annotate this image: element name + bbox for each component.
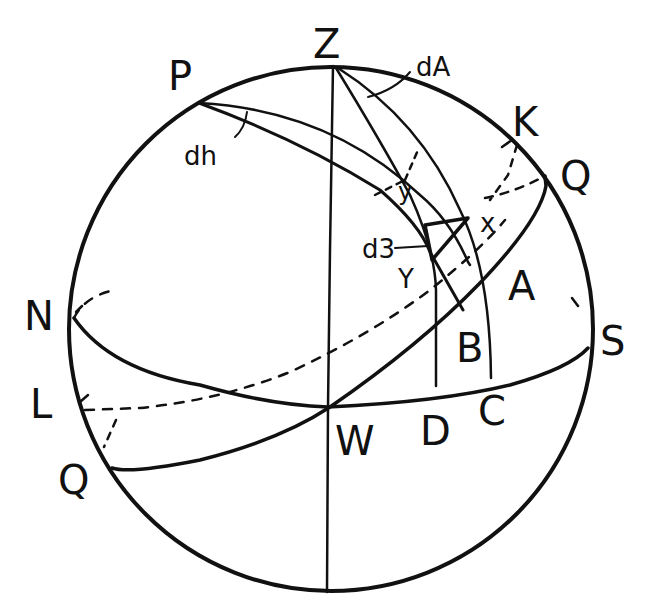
label-L: L: [30, 381, 53, 427]
label-X: x: [480, 208, 495, 238]
label-W: W: [335, 418, 375, 464]
K-tick: [502, 140, 512, 147]
label-Q-right: Q: [560, 153, 591, 199]
label-S: S: [600, 318, 625, 364]
horizon-back: [74, 290, 115, 318]
label-B: B: [456, 325, 483, 371]
prime-vertical-line: [327, 66, 333, 592]
dz-leader: [395, 246, 428, 248]
label-y: y: [398, 178, 412, 206]
equator-back-right: [485, 176, 545, 198]
label-D: D: [420, 408, 451, 454]
label-N: N: [24, 293, 54, 339]
dh-leader: [235, 112, 247, 137]
dashed-top-segment: [405, 150, 418, 180]
label-Y: Y: [397, 264, 414, 294]
L-tick: [80, 395, 88, 402]
L-Q-dashed: [104, 420, 116, 447]
label-Z: Z: [313, 21, 340, 67]
label-K: K: [512, 99, 540, 145]
label-P: P: [168, 53, 192, 99]
label-dz: d3: [362, 234, 395, 264]
celestial-sphere-diagram: Z P dA dh K Q y x d3 Y A N S B L D C W Q: [0, 0, 650, 604]
label-Q-left: Q: [58, 457, 89, 503]
label-dh: dh: [184, 141, 217, 171]
label-C: C: [478, 388, 506, 434]
K-dashed: [490, 145, 517, 200]
label-A: A: [508, 263, 536, 309]
horizon-front: [74, 318, 588, 407]
label-dA: dA: [416, 52, 451, 82]
horizon-back-right: [572, 298, 578, 306]
